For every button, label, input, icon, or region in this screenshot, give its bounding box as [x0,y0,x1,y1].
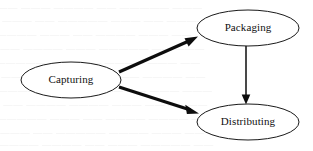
node-label-capturing: Capturing [49,73,94,85]
edge-line [119,41,190,73]
edge-line [119,87,191,110]
edge-packaging-to-distributing[interactable] [242,46,251,105]
diagram-canvas: —— ——— ———— —— ————— ——— ——— —— ————— ——… [0,0,313,151]
node-label-packaging: Packaging [225,21,272,33]
flow-diagram: Capturing Packaging Distributing [0,0,313,151]
arrowhead-icon [242,95,251,105]
arrowhead-icon [185,37,199,47]
arrowhead-icon [185,105,199,114]
node-label-distributing: Distributing [221,115,276,127]
edge-capturing-to-packaging[interactable] [119,37,198,73]
node-capturing[interactable]: Capturing [21,62,121,98]
node-distributing[interactable]: Distributing [197,104,299,140]
node-packaging[interactable]: Packaging [197,10,299,46]
edge-capturing-to-distributing[interactable] [119,87,199,114]
